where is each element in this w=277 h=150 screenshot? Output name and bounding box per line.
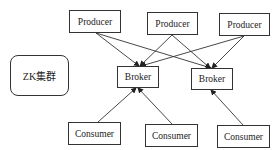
edge-consumer2-broker1 xyxy=(138,88,172,124)
edge-consumer1-broker1 xyxy=(98,88,136,122)
producer-label: Producer xyxy=(227,20,261,30)
producer-node-3: Producer xyxy=(219,13,270,36)
consumer-label: Consumer xyxy=(224,132,263,142)
broker-label: Broker xyxy=(199,74,225,84)
broker-label: Broker xyxy=(125,72,151,82)
consumer-node-2: Consumer xyxy=(145,124,198,147)
consumer-node-1: Consumer xyxy=(68,122,121,145)
edge-producer1-broker1 xyxy=(96,33,139,66)
broker-node-1: Broker xyxy=(117,66,159,88)
consumer-label: Consumer xyxy=(152,131,191,141)
producer-node-1: Producer xyxy=(69,10,121,33)
producer-label: Producer xyxy=(155,19,189,29)
producer-node-2: Producer xyxy=(147,12,198,35)
zk-cluster-node: ZK集群 xyxy=(10,55,69,96)
consumer-node-3: Consumer xyxy=(217,125,270,148)
producer-label: Producer xyxy=(78,17,112,27)
edge-consumer3-broker2 xyxy=(211,90,243,125)
broker-node-2: Broker xyxy=(191,68,233,90)
consumer-label: Consumer xyxy=(75,129,114,139)
zk-cluster-label: ZK集群 xyxy=(23,68,56,83)
